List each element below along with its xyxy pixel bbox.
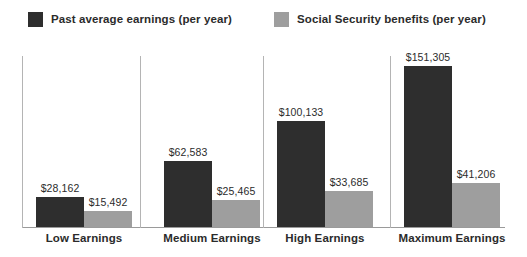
bar-series-1[interactable] xyxy=(325,191,373,227)
bar-value-label: $151,305 xyxy=(406,51,451,63)
group-divider-line xyxy=(390,56,391,228)
bar-series-0[interactable] xyxy=(36,197,84,227)
bar-value-label: $33,685 xyxy=(330,176,369,188)
bar-column[interactable]: $41,206 xyxy=(452,43,500,227)
group-divider-line xyxy=(22,56,23,228)
bar-series-1[interactable] xyxy=(452,183,500,227)
plot-area: $28,162$15,492$62,583$25,465$100,133$33,… xyxy=(0,38,527,228)
category-label: High Earnings xyxy=(285,232,364,244)
grouped-bar-chart: Past average earnings (per year) Social … xyxy=(0,0,527,257)
legend-entry-social-security-benefits[interactable]: Social Security benefits (per year) xyxy=(274,12,486,27)
category-label: Low Earnings xyxy=(46,232,123,244)
category-axis-labels: Low EarningsMedium EarningsHigh Earnings… xyxy=(0,232,527,250)
category-label: Medium Earnings xyxy=(163,232,260,244)
bar-column[interactable]: $25,465 xyxy=(212,43,260,227)
bar-column[interactable]: $151,305 xyxy=(404,43,452,227)
chart-legend: Past average earnings (per year) Social … xyxy=(0,12,527,34)
bar-column[interactable]: $33,685 xyxy=(325,43,373,227)
legend-label-series-1: Social Security benefits (per year) xyxy=(297,12,486,27)
bar-value-label: $100,133 xyxy=(279,106,324,118)
group-divider-line xyxy=(263,56,264,228)
bar-value-label: $62,583 xyxy=(169,146,208,158)
bar-value-label: $41,206 xyxy=(457,168,496,180)
bar-column[interactable]: $15,492 xyxy=(84,43,132,227)
bar-column[interactable]: $28,162 xyxy=(36,43,84,227)
legend-swatch-icon-series-1 xyxy=(274,12,289,27)
bar-column[interactable]: $100,133 xyxy=(277,43,325,227)
bar-series-0[interactable] xyxy=(164,161,212,227)
bar-series-0[interactable] xyxy=(404,66,452,227)
legend-entry-past-average-earnings[interactable]: Past average earnings (per year) xyxy=(28,12,232,27)
bar-column[interactable]: $62,583 xyxy=(164,43,212,227)
group-divider-line xyxy=(140,56,141,228)
legend-label-series-0: Past average earnings (per year) xyxy=(51,12,232,27)
category-label: Maximum Earnings xyxy=(398,232,505,244)
bar-series-1[interactable] xyxy=(212,200,260,227)
bar-value-label: $15,492 xyxy=(89,196,128,208)
bar-value-label: $28,162 xyxy=(41,182,80,194)
bar-value-label: $25,465 xyxy=(217,185,256,197)
bar-series-0[interactable] xyxy=(277,121,325,227)
legend-swatch-icon-series-0 xyxy=(28,12,43,27)
bar-series-1[interactable] xyxy=(84,211,132,227)
